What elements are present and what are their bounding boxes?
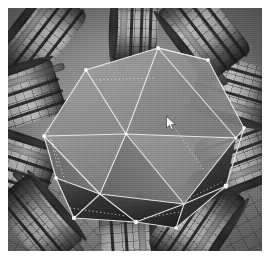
viewport-vignette xyxy=(8,8,262,251)
perspective-viewport[interactable] xyxy=(8,8,262,251)
render-page xyxy=(0,0,272,264)
